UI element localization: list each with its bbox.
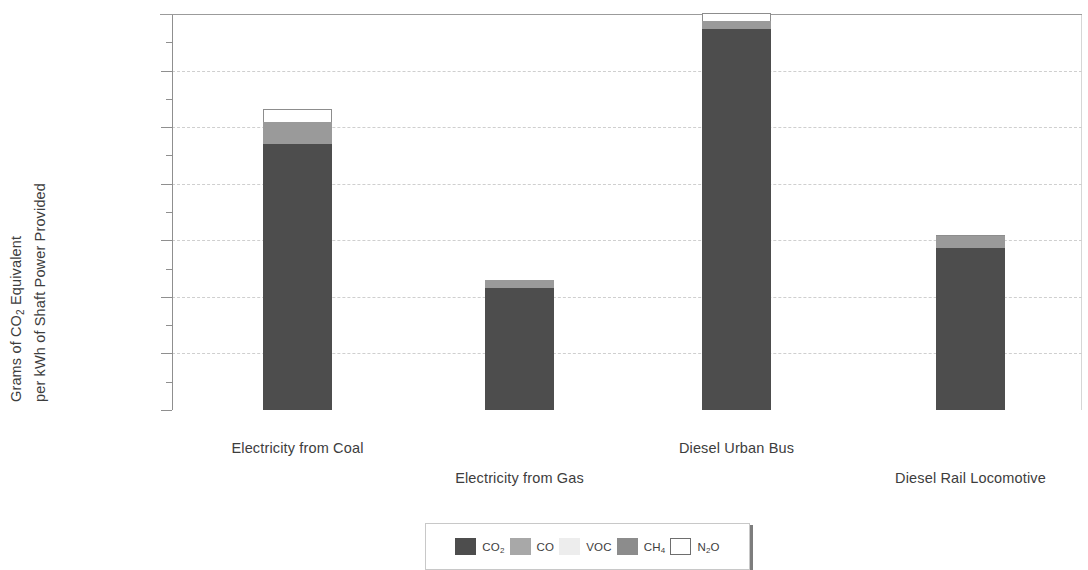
- bar-segment-co: [263, 122, 332, 144]
- category-label-diesel-rail-locomotive: Diesel Rail Locomotive: [895, 470, 1046, 486]
- tick-minor-1100: [166, 99, 172, 100]
- tick-minor-700: [166, 212, 172, 213]
- category-label-diesel-urban-bus: Diesel Urban Bus: [679, 440, 794, 456]
- tick-major-200: [161, 353, 172, 354]
- bar-segment-n2o: [263, 109, 332, 121]
- legend-swatch-icon: [559, 538, 580, 555]
- bar-electricity-from-coal[interactable]: [263, 109, 332, 410]
- bar-segment-co: [485, 280, 554, 288]
- tick-major-600: [161, 240, 172, 241]
- gridline-1200: [172, 71, 1082, 72]
- legend-label: CO2: [482, 541, 504, 553]
- tick-minor-1300: [166, 42, 172, 43]
- bar-segment-co2: [485, 288, 554, 410]
- bar-electricity-from-gas[interactable]: [485, 280, 554, 410]
- bar-segment-co2: [936, 248, 1005, 410]
- legend-item-ch4[interactable]: CH4: [617, 538, 666, 555]
- bar-segment-co2: [263, 144, 332, 410]
- bar-diesel-urban-bus[interactable]: [702, 13, 771, 410]
- legend-swatch-icon: [670, 538, 691, 555]
- legend-swatch-icon: [455, 538, 476, 555]
- y-axis-title-line-1: Grams of CO2 Equivalent: [8, 236, 24, 402]
- tick-minor-100: [166, 382, 172, 383]
- bar-segment-n2o: [702, 13, 771, 21]
- bar-segment-co: [702, 21, 771, 29]
- tick-minor-300: [166, 325, 172, 326]
- legend-label: CH4: [644, 541, 666, 553]
- tick-major-1200: [161, 71, 172, 72]
- tick-major-400: [161, 297, 172, 298]
- category-label-electricity-from-gas: Electricity from Gas: [455, 470, 584, 486]
- bar-segment-co2: [702, 29, 771, 410]
- tick-minor-500: [166, 269, 172, 270]
- chart-legend: CO2COVOCCH4N2O: [425, 523, 750, 570]
- tick-minor-900: [166, 155, 172, 156]
- y-axis-title-line-2: per kWh of Shaft Power Provided: [32, 183, 48, 402]
- plot-area: 02004006008001 0001 2001 400: [172, 14, 1082, 410]
- legend-label: VOC: [586, 541, 612, 553]
- bar-diesel-rail-locomotive[interactable]: [936, 235, 1005, 410]
- tick-major-800: [161, 184, 172, 185]
- emissions-stacked-bar-chart: Grams of CO2 Equivalent per kWh of Shaft…: [0, 0, 1088, 570]
- tick-major-0: [161, 410, 172, 411]
- legend-item-co[interactable]: CO: [510, 538, 555, 555]
- x-axis-baseline: [160, 14, 1082, 15]
- legend-item-co2[interactable]: CO2: [455, 538, 504, 555]
- legend-swatch-icon: [510, 538, 531, 555]
- legend-label: CO: [537, 541, 555, 553]
- tick-major-1000: [161, 127, 172, 128]
- legend-item-n2o[interactable]: N2O: [670, 538, 719, 555]
- bar-segment-co: [936, 236, 1005, 248]
- legend-swatch-icon: [617, 538, 638, 555]
- category-label-electricity-from-coal: Electricity from Coal: [231, 440, 363, 456]
- legend-label: N2O: [697, 541, 719, 553]
- legend-item-voc[interactable]: VOC: [559, 538, 612, 555]
- y-axis-title: Grams of CO2 Equivalent per kWh of Shaft…: [0, 0, 70, 420]
- y-axis-line: [172, 14, 173, 410]
